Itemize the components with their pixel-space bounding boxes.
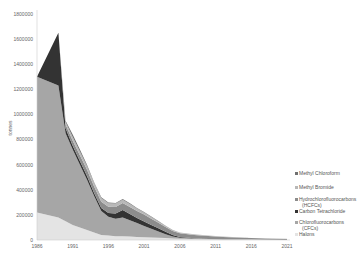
legend-label: Methyl Chloroform	[299, 170, 340, 176]
y-tick-label: 400000	[16, 187, 33, 193]
stacked-area-chart: 0200000400000600000800000100000012000001…	[0, 0, 361, 258]
x-tick-label: 2011	[210, 243, 221, 249]
y-tick-label: 1400000	[14, 61, 34, 67]
x-tick-label: 2021	[281, 243, 292, 249]
legend-swatch	[295, 172, 298, 175]
y-tick-label: 200000	[16, 212, 33, 218]
x-tick-label: 1991	[67, 243, 78, 249]
legend-swatch	[295, 198, 298, 201]
x-tick-label: 1996	[103, 243, 114, 249]
legend-item[interactable]: Carbon Tetrachloride	[295, 208, 346, 214]
legend-item[interactable]: Hydrochlorofluorocarbons(HCFCs)	[295, 196, 357, 208]
y-tick-label: 1200000	[14, 86, 34, 92]
legend-label: Halons	[299, 231, 315, 237]
legend-swatch	[295, 233, 298, 236]
x-tick-label: 2001	[139, 243, 150, 249]
chart-areas	[37, 33, 287, 240]
y-tick-label: 1000000	[14, 111, 34, 117]
y-tick-label: 600000	[16, 162, 33, 168]
legend-label: (CFCs)	[302, 225, 318, 231]
legend-swatch	[295, 221, 298, 224]
legend-item[interactable]: Halons	[295, 231, 315, 237]
legend-swatch	[295, 210, 298, 213]
x-axis-ticks: 19861991199620012006201120162021	[31, 243, 292, 249]
legend-label: (HCFCs)	[302, 202, 322, 208]
x-tick-label: 2016	[246, 243, 257, 249]
area-series-1	[37, 77, 287, 240]
y-tick-label: 1600000	[14, 36, 34, 42]
x-tick-label: 2006	[174, 243, 185, 249]
legend-item[interactable]: Methyl Chloroform	[295, 170, 340, 176]
y-tick-label: 800000	[16, 136, 33, 142]
y-axis-label: tonnes	[7, 120, 13, 136]
legend-swatch	[295, 186, 298, 189]
y-axis-ticks: 0200000400000600000800000100000012000001…	[14, 11, 34, 243]
legend-label: Methyl Bromide	[299, 184, 334, 190]
legend-item[interactable]: Chlorofluorocarbons(CFCs)	[295, 219, 345, 231]
y-tick-label: 1800000	[14, 11, 34, 17]
x-tick-label: 1986	[31, 243, 42, 249]
legend: Methyl ChloroformMethyl BromideHydrochlo…	[295, 170, 357, 237]
legend-item[interactable]: Methyl Bromide	[295, 184, 334, 190]
y-tick-label: 0	[30, 237, 33, 243]
legend-label: Carbon Tetrachloride	[299, 208, 346, 214]
